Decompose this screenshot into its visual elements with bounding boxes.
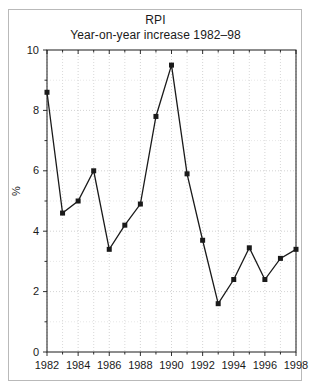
data-point — [262, 277, 267, 282]
data-point — [231, 277, 236, 282]
y-tick-label: 10 — [17, 45, 39, 56]
data-point — [200, 238, 205, 243]
data-point — [169, 63, 174, 68]
data-point — [294, 247, 299, 252]
data-point — [138, 202, 143, 207]
grid-lines — [47, 50, 296, 352]
data-point — [45, 90, 50, 95]
x-tick-label: 1998 — [276, 360, 311, 371]
y-tick-label: 8 — [17, 105, 39, 116]
y-tick-label: 6 — [17, 165, 39, 176]
chart-figure: RPI Year-on-year increase 1982–98 % 0246… — [0, 0, 311, 391]
y-tick-label: 4 — [17, 226, 39, 237]
axis-ticks — [43, 50, 296, 356]
data-point — [60, 211, 65, 216]
data-point — [216, 301, 221, 306]
y-tick-label: 0 — [17, 347, 39, 358]
data-point — [185, 171, 190, 176]
y-tick-label: 2 — [17, 286, 39, 297]
data-point — [76, 199, 81, 204]
data-point — [278, 256, 283, 261]
data-point — [247, 245, 252, 250]
data-point — [153, 114, 158, 119]
data-line — [47, 65, 296, 304]
data-point — [122, 223, 127, 228]
data-point — [107, 247, 112, 252]
data-point — [91, 168, 96, 173]
plot-area — [0, 0, 311, 391]
